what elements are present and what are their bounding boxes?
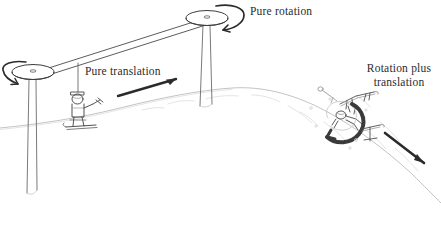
rotating-disc-right	[186, 11, 228, 26]
label-pure-translation: Pure translation	[85, 65, 161, 79]
diagonal-translation-arrow	[385, 133, 424, 163]
snow-hill-slope	[0, 88, 441, 203]
detached-ski	[362, 125, 384, 141]
snow-texture	[142, 95, 418, 171]
straight-translation-arrow	[118, 79, 176, 96]
circular-rotation-arrow	[327, 104, 363, 142]
rotating-disc-left	[12, 65, 54, 80]
lift-pole-left	[27, 79, 37, 194]
label-pure-rotation: Pure rotation	[250, 5, 312, 19]
flying-ski-pole	[318, 87, 337, 103]
diagram-canvas	[0, 0, 441, 227]
flying-skis	[340, 92, 378, 109]
label-rotation-plus-translation: Rotation plus translation	[360, 62, 438, 89]
lift-pole-right	[200, 25, 212, 107]
ski-lift-motion-diagram: Pure rotation Pure translation Rotation …	[0, 0, 441, 227]
seated-skier-on-lift	[63, 92, 103, 130]
